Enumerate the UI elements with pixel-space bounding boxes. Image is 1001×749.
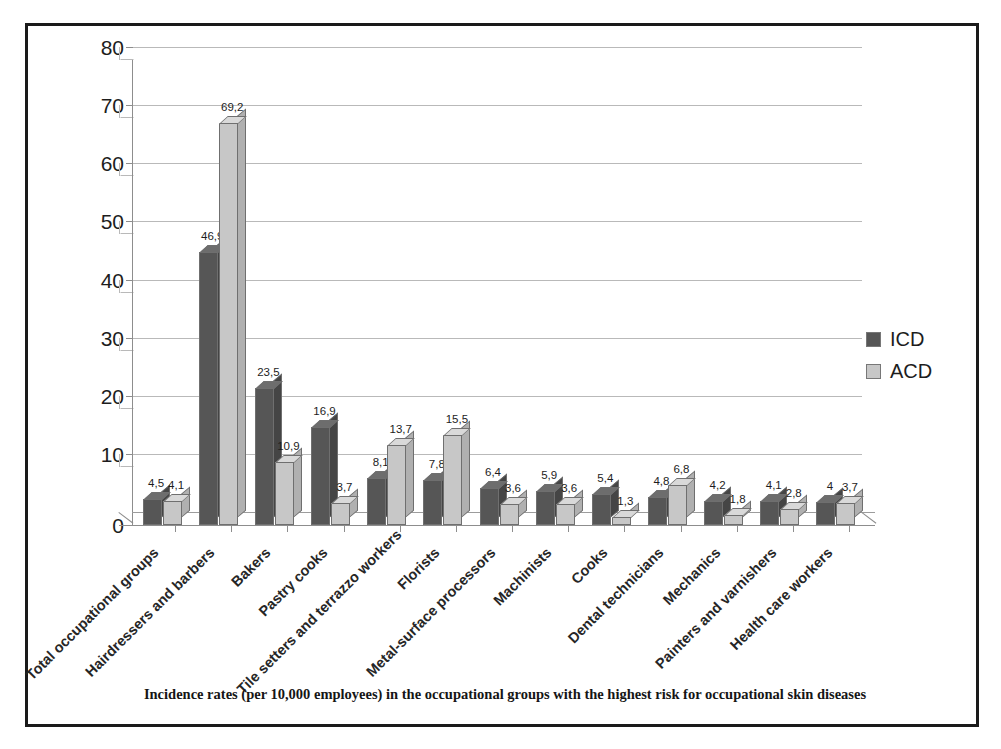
- x-tick-mark: [624, 525, 625, 532]
- legend-swatch-icd: [866, 332, 881, 347]
- chart-legend: ICDACD: [866, 323, 966, 387]
- x-tick-mark: [512, 525, 513, 532]
- x-tick-mark: [231, 525, 232, 532]
- x-tick-mark: [400, 525, 401, 532]
- figure-frame: 01020304050607080 4,54,146,969,223,510,9…: [25, 23, 979, 727]
- x-tick-mark: [456, 525, 457, 532]
- x-tick-mark: [681, 525, 682, 532]
- x-tick-mark: [344, 525, 345, 532]
- chart-plot-area: 01020304050607080 4,54,146,969,223,510,9…: [28, 26, 982, 730]
- legend-label: ICD: [890, 328, 924, 351]
- legend-item-icd: ICD: [866, 323, 966, 355]
- figure-caption: Incidence rates (per 10,000 employees) i…: [28, 686, 982, 703]
- legend-item-acd: ACD: [866, 355, 966, 387]
- legend-swatch-acd: [866, 364, 881, 379]
- x-tick-mark: [849, 525, 850, 532]
- x-tick-mark: [287, 525, 288, 532]
- x-tick-mark: [175, 525, 176, 532]
- x-tick-mark: [793, 525, 794, 532]
- x-tick-mark: [568, 525, 569, 532]
- legend-label: ACD: [890, 360, 932, 383]
- x-axis-category-labels: Total occupational groupsHairdressers an…: [28, 26, 982, 730]
- x-tick-mark: [737, 525, 738, 532]
